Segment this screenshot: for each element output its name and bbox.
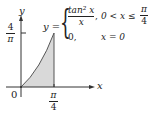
x-axis-label: x — [97, 81, 103, 91]
case1-condition: 0 < x ≤ — [101, 12, 135, 21]
origin-point — [20, 86, 22, 88]
case2-expression: 0, — [68, 33, 77, 42]
x-axis-arrow-icon — [89, 85, 95, 89]
x-tick-denominator: 4 — [51, 103, 57, 112]
case1-condition-fraction: π 4 — [140, 5, 148, 26]
y-tick-denominator: π — [8, 35, 14, 44]
x-tick-numerator: π — [51, 91, 57, 100]
y-axis-label: y — [19, 6, 25, 16]
case1-separator: , — [95, 12, 98, 21]
case1-denominator: x — [79, 18, 84, 27]
function-lhs: y = — [43, 22, 60, 32]
x-tick-label: π 4 — [49, 91, 58, 112]
y-tick-label: 4 π — [6, 23, 15, 44]
y-tick-numerator: 4 — [8, 23, 14, 32]
condition-denominator: 4 — [141, 17, 147, 26]
shaded-region — [21, 33, 54, 87]
case1-numerator: tan² x — [68, 6, 94, 15]
condition-numerator: π — [141, 5, 147, 14]
case2-condition: x = 0 — [101, 33, 125, 42]
origin-label: 0 — [11, 90, 17, 100]
case1-expression: tan² x x — [68, 6, 94, 27]
